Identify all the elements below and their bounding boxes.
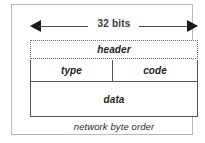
field-rows: header type code data — [30, 40, 198, 117]
field-row-header: header — [30, 40, 198, 59]
field-row-type-code: type code — [30, 60, 198, 82]
diagram-caption: network byte order — [30, 121, 198, 132]
arrow-right-icon — [187, 20, 198, 32]
diagram-outer-frame: 32 bits header type code data network by… — [11, 4, 193, 135]
field-label-type: type — [31, 60, 113, 81]
field-label-code: code — [113, 60, 197, 81]
field-label-header: header — [31, 41, 197, 58]
packet-format-diagram: 32 bits header type code data network by… — [0, 0, 205, 143]
arrow-line-right — [139, 26, 189, 27]
field-row-data: data — [30, 82, 198, 117]
width-label: 32 bits — [88, 17, 140, 31]
arrow-line-left — [39, 26, 89, 27]
width-annotation: 32 bits — [30, 19, 198, 35]
field-label-data: data — [31, 82, 197, 116]
